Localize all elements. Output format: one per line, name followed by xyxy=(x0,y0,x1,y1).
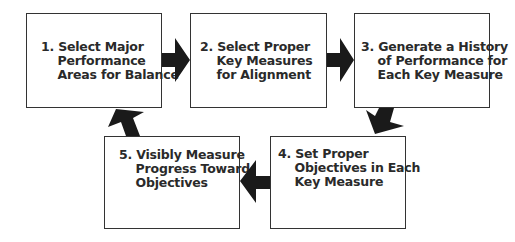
arrow-down-left-icon xyxy=(366,108,404,134)
arrow-left-icon xyxy=(240,160,270,203)
flow-arrows xyxy=(0,0,515,242)
arrow-right-icon xyxy=(162,38,190,82)
arrow-up-right-icon xyxy=(108,109,144,136)
arrow-right-icon xyxy=(327,38,354,82)
